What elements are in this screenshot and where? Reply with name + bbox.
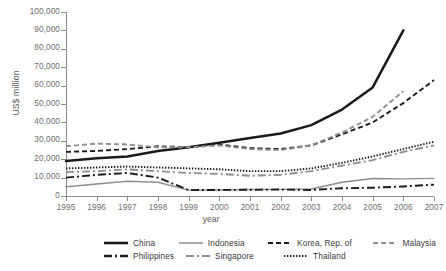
legend-item-indonesia[interactable]: Indonesia: [179, 238, 258, 248]
legend-label-indonesia: Indonesia: [208, 238, 245, 248]
legend-row-1: China Indonesia Korea, Rep. of Malaysia: [104, 236, 446, 249]
legend-item-philippines[interactable]: Philippines: [104, 251, 176, 261]
x-tick-mark: [342, 197, 343, 201]
x-tick-mark: [158, 197, 159, 201]
legend-item-korea[interactable]: Korea, Rep. of: [268, 238, 363, 248]
y-tick-label: 60,000: [14, 81, 60, 89]
legend-swatch-thailand: [284, 251, 308, 261]
series-lines: [66, 12, 434, 196]
y-tick-label: 50,000: [14, 100, 60, 108]
legend-swatch-singapore: [186, 251, 210, 261]
y-tick-label: 90,000: [14, 26, 60, 34]
legend-item-malaysia[interactable]: Malaysia: [373, 238, 436, 248]
legend-label-singapore: Singapore: [215, 251, 254, 261]
y-tick-label: 0: [14, 192, 60, 200]
x-tick-mark: [311, 197, 312, 201]
x-tick-mark: [66, 197, 67, 201]
legend-item-singapore[interactable]: Singapore: [186, 251, 274, 261]
legend-label-philippines: Philippines: [133, 251, 174, 261]
x-tick-mark: [281, 197, 282, 201]
y-tick-label: 10,000: [14, 173, 60, 181]
x-tick-label: 2007: [414, 203, 446, 212]
x-tick-mark: [434, 197, 435, 201]
x-tick-mark: [403, 197, 404, 201]
x-tick-mark: [219, 197, 220, 201]
x-tick-mark: [189, 197, 190, 201]
y-tick-label: 30,000: [14, 136, 60, 144]
legend-label-china: China: [133, 238, 155, 248]
chart-legend: China Indonesia Korea, Rep. of Malaysia: [0, 236, 446, 262]
y-tick-label: 40,000: [14, 118, 60, 126]
legend-label-thailand: Thailand: [313, 251, 346, 261]
x-axis-title: year: [0, 214, 446, 224]
plot-area: [66, 12, 434, 196]
x-tick-mark: [250, 197, 251, 201]
x-tick-mark: [127, 197, 128, 201]
series-line-korea-rep-of: [66, 80, 434, 152]
y-tick-label: 80,000: [14, 44, 60, 52]
y-tick-label: 20,000: [14, 155, 60, 163]
legend-label-malaysia: Malaysia: [402, 238, 436, 248]
y-tick-label: 70,000: [14, 63, 60, 71]
series-line-china: [66, 30, 403, 161]
legend-swatch-korea: [268, 238, 292, 248]
legend-item-thailand[interactable]: Thailand: [284, 251, 346, 261]
legend-item-china[interactable]: China: [104, 238, 169, 248]
chart-container: US$ million 010,00020,00030,00040,00050,…: [0, 0, 446, 271]
y-axis-tick-labels: 010,00020,00030,00040,00050,00060,00070,…: [14, 0, 60, 271]
legend-row-2: Philippines Singapore Thailand: [104, 249, 446, 262]
legend-swatch-philippines: [104, 251, 128, 261]
x-tick-mark: [97, 197, 98, 201]
legend-swatch-indonesia: [179, 238, 203, 248]
y-tick-label: 100,000: [14, 8, 60, 16]
legend-swatch-china: [104, 238, 128, 248]
legend-label-korea: Korea, Rep. of: [297, 238, 352, 248]
legend-swatch-malaysia: [373, 238, 397, 248]
x-tick-mark: [373, 197, 374, 201]
